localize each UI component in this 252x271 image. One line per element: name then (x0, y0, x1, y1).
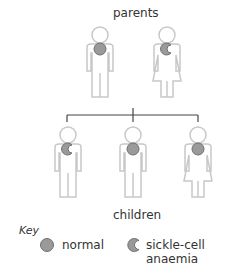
key-normal-label: normal (62, 238, 104, 252)
normal-cell-icon (127, 143, 139, 155)
family-tree-connector (0, 0, 252, 140)
normal-cell-icon (41, 239, 54, 252)
child-1 (51, 125, 85, 200)
key-sickle-label: sickle-cell anaemia (146, 238, 252, 266)
normal-cell-icon (192, 143, 204, 155)
sickle-cell-icon (128, 239, 139, 252)
key-sickle-icon (127, 237, 143, 253)
children-label: children (113, 208, 161, 222)
child-2 (116, 125, 150, 200)
child-3 (181, 125, 215, 200)
key-title: Key (19, 224, 39, 237)
key-normal-icon (39, 237, 55, 253)
